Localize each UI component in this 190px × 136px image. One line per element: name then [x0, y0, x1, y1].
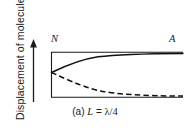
- node-label-N: N: [51, 34, 58, 45]
- caption-value: λ/4: [105, 106, 118, 117]
- dashed-envelope-curve: [52, 73, 184, 97]
- y-axis-label: Displacement of molecules: [13, 0, 27, 120]
- figure-caption: (a) L = λ/4: [0, 106, 190, 117]
- plot-area: N A: [46, 28, 190, 104]
- y-axis-up-arrow-icon: [27, 38, 40, 102]
- standing-wave-figure: Displacement of molecules N A (a) L = λ/…: [0, 0, 190, 136]
- caption-prefix: (a): [72, 106, 84, 117]
- solid-envelope-curve: [52, 53, 184, 72]
- antinode-label-A: A: [169, 34, 175, 45]
